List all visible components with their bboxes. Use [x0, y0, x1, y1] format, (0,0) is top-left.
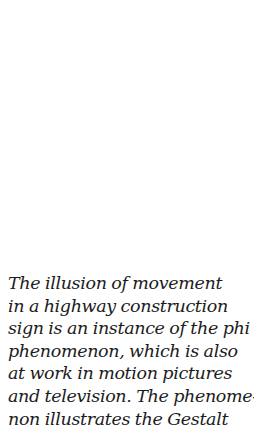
document-page: The illusion of movement in a highway co… — [0, 0, 254, 439]
figure-caption: The illusion of movement in a highway co… — [8, 272, 254, 430]
caption-line: phenomenon, which is also — [8, 340, 254, 363]
caption-line: at work in motion pictures — [8, 362, 254, 385]
blank-figure-area — [0, 0, 254, 270]
caption-line: and television. The phenome- — [8, 385, 254, 408]
caption-line: The illusion of movement — [8, 272, 254, 295]
caption-line: non illustrates the Gestalt — [8, 408, 254, 431]
caption-line: in a highway construction — [8, 295, 254, 318]
caption-line: sign is an instance of the phi — [8, 317, 254, 340]
